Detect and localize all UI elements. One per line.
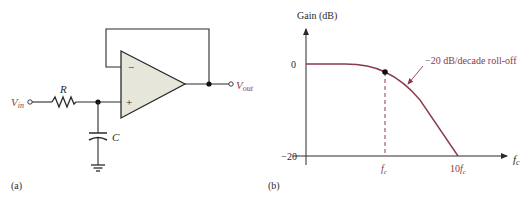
resistor-symbol (52, 97, 76, 107)
input-terminal-circle (28, 100, 32, 104)
vout-label: Vout (236, 79, 254, 93)
response-curve (306, 64, 458, 156)
figure: − + Vout Vin R C (a) Gain (dB) (0, 0, 530, 207)
x-tick-10fc: 10fc (450, 163, 467, 176)
resistor-label: R (59, 83, 67, 95)
ground-icon (91, 165, 105, 171)
y-tick-minus20: −20 (281, 151, 297, 162)
y-axis-label: Gain (dB) (297, 10, 337, 22)
opamp-minus-terminal: − (128, 61, 134, 73)
vin-label: Vin (11, 96, 24, 110)
capacitor-label: C (112, 131, 120, 143)
bode-plot: Gain (dB) fc 0 −20 fc 10fc −20 dB/decade… (268, 10, 520, 192)
output-node-dot (206, 81, 211, 86)
panel-a-label: (a) (11, 180, 22, 192)
panel-b-label: (b) (268, 180, 280, 192)
x-tick-fc: fc (381, 163, 388, 176)
opamp-plus-terminal: + (126, 96, 132, 108)
y-tick-0: 0 (291, 59, 296, 70)
circuit-diagram: − + Vout Vin R C (a) (11, 29, 254, 192)
x-axis-end-label: fc (513, 153, 520, 167)
annotation-arrow (408, 66, 423, 84)
cutoff-point-dot (382, 69, 388, 75)
output-terminal-circle (229, 82, 233, 86)
rolloff-annotation: −20 dB/decade roll-off (425, 55, 517, 66)
